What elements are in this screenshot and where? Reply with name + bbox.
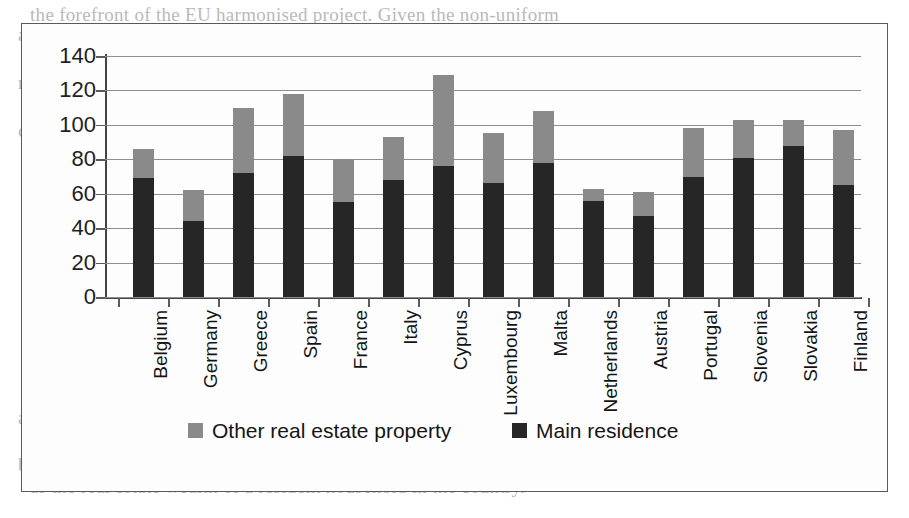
bar-segment-main-residence	[583, 201, 604, 297]
legend-label: Main residence	[536, 420, 678, 441]
x-tick-mark	[218, 298, 220, 307]
bar-segment-main-residence	[833, 185, 854, 297]
bar-segment-other-real-estate-property	[733, 120, 754, 158]
x-tick-mark	[618, 298, 620, 307]
bar-stack	[483, 133, 504, 297]
y-tick-label: 80	[32, 148, 96, 170]
y-tick-label: 20	[32, 252, 96, 274]
bar-segment-other-real-estate-property	[383, 137, 404, 180]
bar-stack	[283, 94, 304, 297]
x-tick-label-italy: Italy	[401, 310, 420, 345]
bar-segment-other-real-estate-property	[283, 94, 304, 156]
bar-segment-other-real-estate-property	[183, 190, 204, 221]
bar-segment-other-real-estate-property	[483, 133, 504, 183]
x-tick-label-cyprus: Cyprus	[451, 310, 470, 370]
bar-segment-main-residence	[533, 163, 554, 297]
bar-stack	[133, 149, 154, 297]
x-tick-mark	[118, 298, 120, 307]
x-tick-label-france: France	[351, 310, 370, 369]
x-tick-label-finland: Finland	[851, 310, 870, 372]
bar-stack	[833, 130, 854, 297]
bar-stack	[233, 108, 254, 297]
x-tick-label-malta: Malta	[551, 310, 570, 356]
x-tick-mark	[868, 298, 870, 307]
bar-segment-main-residence	[633, 216, 654, 297]
x-tick-mark	[418, 298, 420, 307]
bar-segment-main-residence	[483, 183, 504, 297]
bar-segment-main-residence	[383, 180, 404, 297]
x-tick-mark	[168, 298, 170, 307]
bar-segment-main-residence	[283, 156, 304, 297]
y-tick-label: 140	[32, 45, 96, 67]
plot-area	[105, 56, 861, 297]
x-tick-mark	[268, 298, 270, 307]
x-tick-mark	[368, 298, 370, 307]
bar-segment-main-residence	[783, 146, 804, 297]
x-tick-mark	[518, 298, 520, 307]
y-tick-label: 60	[32, 183, 96, 205]
bar-segment-other-real-estate-property	[783, 120, 804, 146]
x-tick-mark	[318, 298, 320, 307]
bar-stack	[383, 137, 404, 297]
x-tick-mark	[768, 298, 770, 307]
bar-stack	[683, 128, 704, 297]
gridline	[105, 56, 861, 57]
bar-stack	[633, 192, 654, 297]
bar-stack	[183, 190, 204, 297]
x-tick-label-slovakia: Slovakia	[801, 310, 820, 382]
x-tick-label-belgium: Belgium	[151, 310, 170, 379]
chart-figure-frame: 020406080100120140 BelgiumGermanyGreeceS…	[21, 23, 888, 492]
x-tick-label-greece: Greece	[251, 310, 270, 372]
legend-item-other[interactable]: Other real estate property	[188, 420, 451, 441]
y-tick-label: 0	[32, 286, 96, 308]
gridline	[105, 90, 861, 91]
x-tick-mark	[468, 298, 470, 307]
legend-label: Other real estate property	[212, 420, 451, 441]
bar-segment-main-residence	[433, 166, 454, 297]
x-tick-label-netherlands: Netherlands	[601, 310, 620, 412]
bar-segment-other-real-estate-property	[133, 149, 154, 178]
bar-segment-main-residence	[133, 178, 154, 297]
y-tick-label: 100	[32, 114, 96, 136]
x-tick-mark	[818, 298, 820, 307]
bar-segment-other-real-estate-property	[533, 111, 554, 163]
bar-segment-main-residence	[333, 202, 354, 297]
bar-stack	[433, 75, 454, 297]
bar-stack	[583, 189, 604, 297]
bar-segment-other-real-estate-property	[433, 75, 454, 166]
x-tick-mark	[718, 298, 720, 307]
x-tick-label-portugal: Portugal	[701, 310, 720, 381]
x-tick-mark	[568, 298, 570, 307]
bar-segment-other-real-estate-property	[233, 108, 254, 173]
bar-segment-other-real-estate-property	[833, 130, 854, 185]
bar-stack	[533, 111, 554, 297]
bar-segment-main-residence	[233, 173, 254, 297]
x-tick-label-germany: Germany	[201, 310, 220, 388]
x-tick-label-austria: Austria	[651, 310, 670, 369]
bar-segment-other-real-estate-property	[583, 189, 604, 201]
bar-segment-other-real-estate-property	[333, 159, 354, 202]
bar-segment-main-residence	[183, 221, 204, 297]
bar-segment-main-residence	[683, 177, 704, 298]
legend-item-main[interactable]: Main residence	[512, 420, 678, 441]
y-tick-label: 120	[32, 79, 96, 101]
x-tick-label-luxembourg: Luxembourg	[501, 310, 520, 416]
chart-legend: Other real estate propertyMain residence	[22, 420, 887, 450]
legend-swatch-other-icon	[188, 423, 203, 438]
bar-segment-other-real-estate-property	[633, 192, 654, 216]
bar-stack	[783, 120, 804, 297]
legend-swatch-main-icon	[512, 423, 527, 438]
bar-stack	[733, 120, 754, 297]
x-tick-mark	[668, 298, 670, 307]
y-tick-label: 40	[32, 217, 96, 239]
bar-stack	[333, 159, 354, 297]
x-tick-label-spain: Spain	[301, 310, 320, 359]
bar-segment-main-residence	[733, 158, 754, 297]
bar-segment-other-real-estate-property	[683, 128, 704, 176]
x-tick-label-slovenia: Slovenia	[751, 310, 770, 383]
